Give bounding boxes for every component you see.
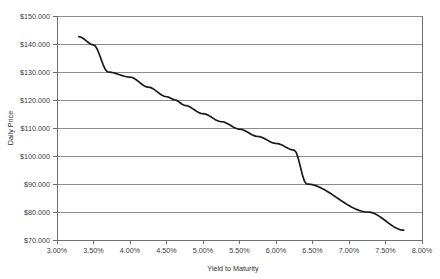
x-tick-label: 4.00% bbox=[120, 246, 141, 255]
x-tick-label: 3.50% bbox=[83, 246, 104, 255]
y-tick-label: $130.000 bbox=[20, 68, 50, 77]
x-tick-label: 7.00% bbox=[339, 246, 360, 255]
x-tick-label: 5.00% bbox=[193, 246, 214, 255]
x-tick-label: 8.00% bbox=[412, 246, 433, 255]
y-tick-label: $110.000 bbox=[21, 124, 50, 133]
chart-background bbox=[0, 0, 440, 279]
y-tick-label: $150.000 bbox=[20, 12, 50, 21]
y-tick-label: $140.000 bbox=[20, 40, 50, 49]
y-axis-title: Daily Price bbox=[6, 111, 15, 145]
y-axis-tick-labels: $150.000$140.000$130.000$120.000$110.000… bbox=[20, 12, 50, 245]
chart-container: $150.000$140.000$130.000$120.000$110.000… bbox=[0, 0, 440, 279]
y-tick-label: $100.000 bbox=[20, 152, 50, 161]
y-tick-label: $120.000 bbox=[20, 96, 50, 105]
x-tick-label: 3.00% bbox=[47, 246, 68, 255]
x-tick-label: 4.50% bbox=[156, 246, 177, 255]
x-tick-label: 6.50% bbox=[302, 246, 323, 255]
y-tick-label: $90.000 bbox=[24, 180, 50, 189]
x-axis-title: Yield to Maturity bbox=[207, 264, 259, 273]
y-tick-label: $80.000 bbox=[24, 208, 50, 217]
price-yield-line-chart: $150.000$140.000$130.000$120.000$110.000… bbox=[0, 0, 440, 279]
y-tick-label: $70.000 bbox=[24, 236, 50, 245]
x-tick-label: 5.50% bbox=[229, 246, 250, 255]
x-tick-label: 6.00% bbox=[266, 246, 287, 255]
x-tick-label: 7.50% bbox=[375, 246, 396, 255]
